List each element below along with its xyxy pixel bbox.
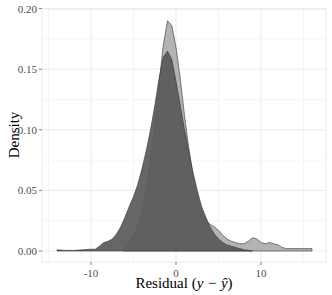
y-tick-label: 0.00 — [18, 245, 38, 257]
x-tick-label: 10 — [256, 267, 268, 279]
y-tick-label: 0.05 — [18, 184, 38, 196]
y-tick-label: 0.15 — [18, 63, 38, 75]
y-axis-title: Density — [6, 111, 22, 158]
y-tick-label: 0.20 — [18, 3, 38, 15]
x-axis-title: Residual (y − ŷ) — [135, 275, 232, 292]
density-chart: 0.000.050.100.150.20 -10010 Residual (y … — [0, 0, 332, 295]
x-tick-label: -10 — [84, 267, 99, 279]
